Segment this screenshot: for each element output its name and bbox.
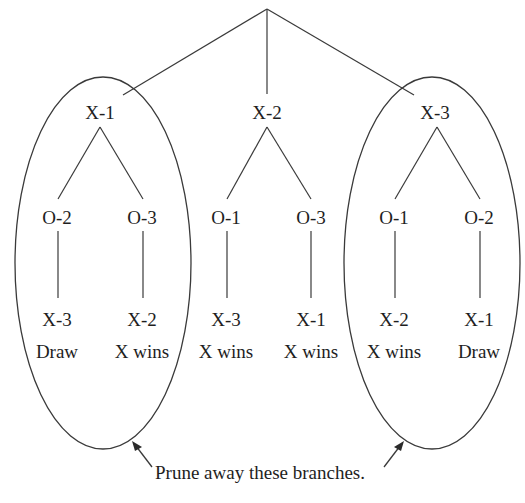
outcome-xwins-b: X wins <box>199 341 253 362</box>
prune-oval-right <box>344 77 520 449</box>
node-x3: X-3 <box>420 102 450 123</box>
node-x2: X-2 <box>252 102 282 123</box>
leaf-x3-a: X-3 <box>42 309 72 330</box>
outcome-xwins-a: X wins <box>115 341 169 362</box>
edge-root-x3 <box>267 9 414 95</box>
outcome-xwins-d: X wins <box>367 341 421 362</box>
leaf-x3-b: X-3 <box>211 309 241 330</box>
level2-edges <box>58 127 480 199</box>
game-tree-diagram: X-1 X-2 X-3 O-2 O-3 O-1 O-3 O-1 O-2 X-3 … <box>0 0 525 503</box>
node-o3-a: O-3 <box>127 207 157 228</box>
node-o1-c: O-1 <box>379 207 409 228</box>
outcome-xwins-c: X wins <box>284 341 338 362</box>
outcome-draw-b: Draw <box>458 341 500 362</box>
node-o3-b: O-3 <box>296 207 326 228</box>
leaf-x2-a: X-2 <box>127 309 157 330</box>
node-o1-b: O-1 <box>211 207 241 228</box>
leaf-x1-c: X-1 <box>464 309 494 330</box>
leaf-x2-c: X-2 <box>379 309 409 330</box>
outcome-draw-a: Draw <box>36 341 78 362</box>
arrow-left-icon <box>132 441 152 467</box>
root-edges <box>123 9 414 95</box>
leaf-x1-b: X-1 <box>296 309 326 330</box>
edge-root-x1 <box>123 9 267 95</box>
leaf-edges <box>58 231 480 298</box>
caption: Prune away these branches. <box>155 462 365 483</box>
arrow-right-icon <box>384 441 404 467</box>
node-o2-c: O-2 <box>464 207 494 228</box>
node-o2-a: O-2 <box>42 207 72 228</box>
node-x1: X-1 <box>85 102 115 123</box>
